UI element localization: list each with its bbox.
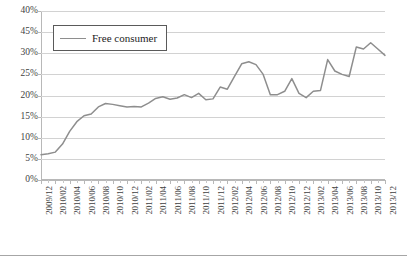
x-axis-tick [213, 180, 214, 184]
x-axis-tick [106, 180, 107, 183]
y-axis-tick-label: 25% [6, 70, 38, 80]
x-axis-tick-label: 2013/04 [331, 186, 340, 215]
y-axis-tick-label: 5% [6, 154, 38, 164]
x-axis-tick [227, 180, 228, 184]
x-axis-tick-label: 2011/08 [188, 186, 197, 214]
x-axis-tick-label: 2010/04 [73, 186, 82, 215]
x-axis-tick [55, 180, 56, 184]
x-axis-tick [120, 180, 121, 183]
x-axis-tick [149, 180, 150, 183]
x-axis-tick [356, 180, 357, 184]
x-axis-tick-label: 2013/08 [360, 186, 369, 215]
y-axis-tick-label: 30% [6, 49, 38, 59]
x-axis-tick [163, 180, 164, 183]
x-axis-tick [77, 180, 78, 183]
x-axis-tick-label: 2011/06 [174, 186, 183, 214]
x-axis-tick [263, 180, 264, 183]
x-axis-tick-label: 2010/02 [59, 186, 68, 215]
x-axis-tick-label: 2012/02 [231, 186, 240, 215]
x-axis-tick [364, 180, 365, 183]
x-axis-tick [378, 180, 379, 183]
x-axis-tick-label: 2012/08 [274, 186, 283, 215]
y-axis-tick-label: 10% [6, 133, 38, 143]
x-axis-tick [63, 180, 64, 183]
x-axis-tick [270, 180, 271, 184]
x-axis-tick-label: 2010/12 [131, 186, 140, 215]
x-axis-tick [242, 180, 243, 184]
legend-line-swatch [60, 38, 86, 39]
x-axis-tick [113, 180, 114, 184]
x-axis-tick-label: 2013/12 [389, 186, 398, 215]
series-line [41, 43, 385, 155]
x-axis-tick [342, 180, 343, 184]
x-axis-tick [70, 180, 71, 184]
y-axis-tick-label: 0% [6, 175, 38, 185]
x-axis-tick-label: 2011/12 [217, 186, 226, 214]
x-axis-tick [349, 180, 350, 183]
x-axis-tick-label: 2010/10 [116, 186, 125, 215]
x-axis-tick [220, 180, 221, 183]
chart-legend: Free consumer [53, 25, 167, 51]
x-axis-tick [192, 180, 193, 183]
x-axis-tick-label: 2009/12 [45, 186, 54, 215]
x-axis-tick [48, 180, 49, 183]
x-axis-tick [256, 180, 257, 184]
x-axis-tick-label: 2013/10 [374, 186, 383, 215]
x-axis-tick [199, 180, 200, 184]
x-axis-tick [91, 180, 92, 183]
x-axis-tick [278, 180, 279, 183]
x-axis-tick [249, 180, 250, 183]
x-axis-tick-label: 2010/08 [102, 186, 111, 215]
legend-entry-label: Free consumer [92, 32, 157, 44]
y-axis-tick-label: 45% [6, 27, 38, 37]
x-axis-tick-label: 2012/06 [260, 186, 269, 215]
x-axis-tick-label: 2012/10 [288, 186, 297, 215]
x-axis-tick [84, 180, 85, 184]
x-axis-tick-label: 2012/04 [245, 186, 254, 215]
x-axis-tick [127, 180, 128, 184]
y-axis-tick-label: 20% [6, 91, 38, 101]
x-axis-tick [292, 180, 293, 183]
y-axis-tick-label: 40% [6, 6, 38, 16]
x-axis-tick [184, 180, 185, 184]
x-axis-tick [98, 180, 99, 184]
x-axis-tick [134, 180, 135, 183]
x-axis-tick [41, 180, 42, 184]
y-axis-tick-label: 15% [6, 112, 38, 122]
x-axis-tick [321, 180, 322, 183]
x-axis-tick [177, 180, 178, 183]
x-axis-tick [206, 180, 207, 183]
x-axis-tick-label: 2013/02 [317, 186, 326, 215]
x-axis-tick [335, 180, 336, 183]
x-axis-tick-label: 2011/10 [202, 186, 211, 214]
x-axis-tick-label: 2011/02 [145, 186, 154, 214]
plot-area: Free consumer [41, 11, 385, 180]
x-axis-tick [313, 180, 314, 184]
x-axis-tick [156, 180, 157, 184]
x-axis-tick [170, 180, 171, 184]
x-axis-tick-label: 2012/12 [303, 186, 312, 215]
x-axis-tick [328, 180, 329, 184]
x-axis-tick [235, 180, 236, 183]
x-axis-tick-label: 2011/04 [159, 186, 168, 214]
x-axis-tick-label: 2010/06 [88, 186, 97, 215]
x-axis-tick [385, 180, 386, 184]
x-axis-tick [306, 180, 307, 183]
x-axis-tick-label: 2013/06 [346, 186, 355, 215]
x-axis-tick [299, 180, 300, 184]
chart-figure: 40%45%30%25%20%15%10%5%0% Free consumer … [0, 0, 407, 256]
x-axis-tick [141, 180, 142, 184]
x-axis-tick [371, 180, 372, 184]
x-axis-tick [285, 180, 286, 184]
